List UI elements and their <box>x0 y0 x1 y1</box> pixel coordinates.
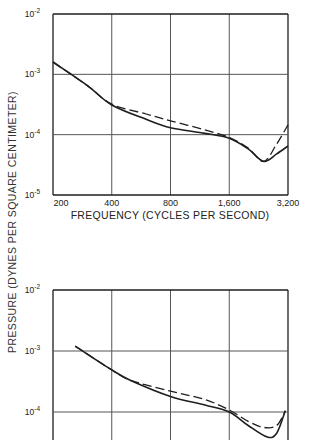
x-tick-label: 1,600 <box>218 198 241 208</box>
bottom-chart: 10-210-310-4 <box>25 283 288 440</box>
y-tick-label: 10-3 <box>25 67 41 79</box>
figure: PRESSURE (DYNES PER SQUARE CENTIMETER) 1… <box>0 0 320 440</box>
x-axis-label: FREQUENCY (CYCLES PER SECOND) <box>71 209 270 221</box>
top-chart: 10-210-310-410-5 2004008001,6003,200 FRE… <box>25 7 300 221</box>
top-chart-y-tick-labels: 10-210-310-410-5 <box>25 7 41 200</box>
y-tick-label: 10-2 <box>25 7 41 19</box>
y-tick-label: 10-4 <box>25 405 41 417</box>
bottom-chart-grid <box>53 290 288 440</box>
y-tick-label: 10-3 <box>25 344 41 356</box>
x-tick-label: 400 <box>104 198 119 208</box>
y-tick-label: 10-5 <box>25 188 41 200</box>
top-chart-x-tick-labels: 2004008001,6003,200 <box>53 198 299 208</box>
y-tick-label: 10-4 <box>25 128 41 140</box>
x-tick-label: 200 <box>53 198 68 208</box>
bottom-chart-dashed-curve <box>75 346 285 428</box>
bottom-chart-y-tick-labels: 10-210-310-4 <box>25 283 41 417</box>
top-chart-grid <box>53 14 288 195</box>
chart-canvas: 10-210-310-410-5 2004008001,6003,200 FRE… <box>0 0 320 440</box>
x-tick-label: 800 <box>163 198 178 208</box>
y-tick-label: 10-2 <box>25 283 41 295</box>
x-tick-label: 3,200 <box>277 198 300 208</box>
y-axis-label: PRESSURE (DYNES PER SQUARE CENTIMETER) <box>6 91 18 353</box>
